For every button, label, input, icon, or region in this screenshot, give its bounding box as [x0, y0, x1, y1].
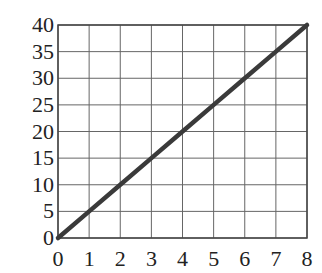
- y-tick-label: 5: [43, 198, 54, 223]
- y-tick-label: 25: [32, 92, 54, 117]
- y-tick-label: 20: [32, 119, 54, 144]
- line-chart: 0510152025303540 012345678: [0, 0, 322, 273]
- x-axis-tick-labels: 012345678: [53, 246, 313, 271]
- x-tick-label: 2: [115, 246, 126, 271]
- y-tick-label: 35: [32, 39, 54, 64]
- x-tick-label: 7: [270, 246, 281, 271]
- y-tick-label: 40: [32, 12, 54, 37]
- y-axis-tick-labels: 0510152025303540: [32, 12, 54, 250]
- x-tick-label: 4: [177, 246, 188, 271]
- x-tick-label: 3: [146, 246, 157, 271]
- x-tick-label: 6: [239, 246, 250, 271]
- x-tick-label: 0: [53, 246, 64, 271]
- y-tick-label: 15: [32, 145, 54, 170]
- x-tick-label: 8: [302, 246, 313, 271]
- y-tick-label: 30: [32, 65, 54, 90]
- x-tick-label: 1: [84, 246, 95, 271]
- y-tick-label: 10: [32, 172, 54, 197]
- x-tick-label: 5: [208, 246, 219, 271]
